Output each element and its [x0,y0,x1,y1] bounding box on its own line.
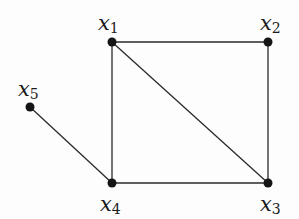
node-x5 [26,103,35,112]
edge-x1-x3 [112,42,268,183]
nodes-group [26,38,273,188]
node-x2 [264,38,273,47]
graph-svg: x1x2x3x4x5 [0,0,299,219]
graph-diagram: x1x2x3x4x5 [0,0,299,219]
edge-x5-x4 [30,107,112,183]
node-x4 [108,179,117,188]
node-label-x4: x4 [100,192,121,217]
node-label-x3: x3 [260,192,281,217]
node-label-x1: x1 [98,11,119,36]
edges-group [30,42,268,183]
node-x1 [108,38,117,47]
node-label-x2: x2 [260,11,281,36]
node-x3 [264,179,273,188]
node-label-x5: x5 [18,77,39,102]
